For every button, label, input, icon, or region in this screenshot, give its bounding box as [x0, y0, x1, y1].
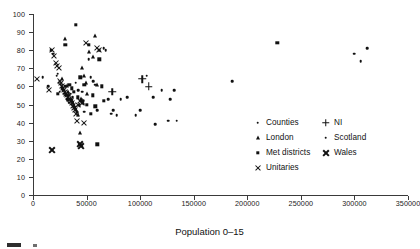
- data-point-counties: [175, 119, 178, 122]
- page-artifact-mark-secondary: [33, 244, 37, 247]
- y-tick: [29, 177, 33, 178]
- data-point-counties: [87, 58, 90, 61]
- legend-label: Scotland: [334, 133, 366, 142]
- x-tick-label: 50000: [76, 199, 97, 208]
- data-point-met-districts: [100, 85, 103, 88]
- data-point-london: [87, 50, 91, 54]
- data-point-met-districts: [74, 23, 77, 26]
- legend-entry[interactable]: Counties: [252, 115, 310, 130]
- data-point-london: [95, 82, 99, 86]
- data-point-counties: [120, 98, 123, 101]
- legend-column-left: CountiesLondonMet districtsUnitaries: [252, 115, 310, 175]
- legend-label: NI: [334, 118, 342, 127]
- data-point-unitaries: [96, 47, 103, 54]
- data-point-london: [93, 33, 97, 37]
- data-point-counties: [90, 76, 93, 79]
- legend-marker-dot-icon: [320, 132, 331, 143]
- legend-column-right: NIScotlandWales: [320, 115, 366, 160]
- data-point-counties: [41, 76, 44, 79]
- y-tick: [29, 159, 33, 160]
- data-point-london: [85, 91, 89, 95]
- y-tick-label: 20: [0, 154, 25, 163]
- data-point-counties: [96, 109, 99, 112]
- data-point-london: [82, 73, 86, 77]
- data-point-met-districts: [91, 94, 94, 97]
- y-tick: [29, 141, 33, 142]
- data-point-counties: [83, 110, 86, 113]
- legend-entry[interactable]: NI: [320, 115, 366, 130]
- x-axis-line: [33, 195, 408, 196]
- legend-entry[interactable]: Unitaries: [252, 160, 310, 175]
- data-point-counties: [56, 72, 59, 75]
- data-point-counties: [169, 98, 172, 101]
- legend-entry[interactable]: Scotland: [320, 130, 366, 145]
- data-point-london: [63, 37, 67, 41]
- y-tick-label: 0: [0, 191, 25, 200]
- legend-marker-triangle-icon: [252, 132, 263, 143]
- data-point-counties: [77, 89, 80, 92]
- data-point-counties: [112, 109, 115, 112]
- legend-label: Counties: [266, 118, 299, 127]
- data-point-met-districts: [56, 92, 59, 95]
- data-point-counties: [75, 81, 78, 84]
- data-point-met-districts: [98, 58, 101, 61]
- legend-label: Wales: [334, 148, 357, 157]
- data-point-met-districts: [96, 143, 99, 146]
- y-tick-label: 90: [0, 28, 25, 37]
- page-artifact-mark: [7, 243, 21, 247]
- legend-label: Unitaries: [266, 163, 299, 172]
- data-point-counties: [107, 98, 110, 101]
- legend-label: Met districts: [266, 148, 310, 157]
- data-point-met-districts: [93, 105, 96, 108]
- legend-marker-x-bold-icon: [320, 147, 331, 158]
- data-point-counties: [160, 89, 163, 92]
- data-point-unitaries: [73, 117, 80, 124]
- data-point-counties: [135, 114, 138, 117]
- y-tick-label: 100: [0, 10, 25, 19]
- data-point-wales: [77, 142, 85, 150]
- legend-label: London: [266, 133, 294, 142]
- data-point-counties: [115, 114, 118, 117]
- x-tick-label: 0: [31, 199, 35, 208]
- data-point-counties: [92, 80, 95, 83]
- data-point-counties: [167, 119, 170, 122]
- data-point-scotland: [360, 60, 363, 63]
- y-tick-label: 40: [0, 118, 25, 127]
- data-point-unitaries: [72, 110, 79, 117]
- y-tick: [29, 32, 33, 33]
- y-axis-line: [33, 14, 34, 196]
- y-tick-label: 80: [0, 46, 25, 55]
- legend-marker-dot-icon: [252, 117, 263, 128]
- y-tick: [29, 50, 33, 51]
- y-tick: [29, 14, 33, 15]
- data-point-counties: [105, 49, 108, 52]
- y-tick-label: 70: [0, 64, 25, 73]
- data-point-counties: [139, 109, 142, 112]
- data-point-unitaries: [34, 76, 41, 83]
- y-tick: [29, 195, 33, 196]
- y-tick-label: 30: [0, 136, 25, 145]
- legend-entry[interactable]: London: [252, 130, 310, 145]
- y-tick-label: 60: [0, 82, 25, 91]
- data-point-london: [91, 55, 95, 59]
- legend-entry[interactable]: Met districts: [252, 145, 310, 160]
- x-tick-label: 100000: [128, 199, 153, 208]
- data-point-ni: [145, 83, 153, 91]
- y-tick-label: 50: [0, 100, 25, 109]
- x-tick-label: 150000: [181, 199, 206, 208]
- data-point-met-districts: [83, 83, 86, 86]
- data-point-met-districts: [72, 90, 75, 93]
- data-point-met-districts: [63, 43, 66, 46]
- y-tick-label: 10: [0, 172, 25, 181]
- x-axis-title: Population 0–15: [0, 226, 419, 237]
- x-tick-label: 300000: [342, 199, 367, 208]
- legend-entry[interactable]: Wales: [320, 145, 366, 160]
- data-point-counties: [126, 96, 129, 99]
- y-tick: [29, 123, 33, 124]
- data-point-counties: [154, 123, 157, 126]
- data-point-counties: [152, 96, 155, 99]
- data-point-met-districts: [276, 41, 279, 44]
- legend-marker-square-icon: [252, 147, 263, 158]
- x-tick-label: 200000: [235, 199, 260, 208]
- data-point-met-districts: [102, 99, 105, 102]
